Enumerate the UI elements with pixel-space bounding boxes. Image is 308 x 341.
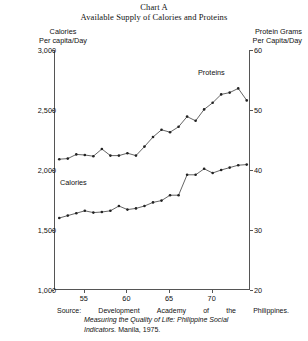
left-axis-header-line1: Calories [30, 27, 96, 36]
data-point [194, 120, 197, 123]
source-word-2: Academy [157, 306, 186, 315]
data-point [203, 168, 206, 171]
data-point [135, 154, 138, 157]
source-word-1: Development [98, 306, 139, 315]
left-axis-tick-mark [51, 50, 54, 51]
x-axis-tick-label: 60 [115, 294, 137, 303]
source-line-1: Source: Development Academy of the Phili… [57, 306, 289, 315]
right-axis-header-line2: Per Capita/Day [216, 36, 302, 45]
data-point [66, 214, 69, 217]
data-point [58, 217, 61, 220]
data-point [160, 129, 163, 132]
data-point [118, 154, 121, 157]
data-point [228, 91, 231, 94]
data-point [126, 152, 129, 155]
right-axis-header: Protein Grams Per Capita/Day [216, 27, 302, 45]
left-axis-tick-mark [51, 230, 54, 231]
chart-svg [55, 50, 251, 290]
calories-series-label: Calories [60, 178, 87, 187]
source-word-5: Philippines. [253, 306, 289, 315]
data-point [228, 166, 231, 169]
data-point [220, 169, 223, 172]
data-point [211, 102, 214, 105]
calories-line [59, 165, 246, 218]
left-axis-tick-label: 2,500 [16, 106, 56, 115]
data-point [177, 126, 180, 129]
data-point [135, 207, 138, 210]
right-axis-tick-mark [250, 170, 253, 171]
left-axis-tick-mark [51, 170, 54, 171]
data-point [237, 164, 240, 167]
data-point [101, 148, 104, 151]
data-point [152, 136, 155, 139]
x-axis-tick-mark [169, 290, 170, 293]
plot-area [54, 50, 250, 290]
x-axis-tick-label: 65 [158, 294, 180, 303]
right-axis-tick-label: 30 [254, 226, 294, 235]
chart-subtitle: Available Supply of Calories and Protein… [0, 13, 308, 23]
left-axis-tick-label: 3,000 [16, 46, 56, 55]
data-point [169, 131, 172, 134]
x-axis-tick-mark [212, 290, 213, 293]
right-axis-tick-mark [250, 110, 253, 111]
right-axis-tick-mark [250, 50, 253, 51]
data-point [186, 174, 189, 177]
left-axis-tick-label: 1,000 [16, 286, 56, 295]
data-point [84, 210, 87, 213]
data-point [58, 158, 61, 161]
right-axis-tick-mark [250, 230, 253, 231]
right-axis-tick-mark [250, 290, 253, 291]
data-point [220, 93, 223, 96]
source-note: Source: Development Academy of the Phili… [57, 306, 289, 334]
data-point [203, 108, 206, 111]
right-axis-tick-label: 40 [254, 166, 294, 175]
data-point [186, 115, 189, 118]
data-point [177, 194, 180, 197]
right-axis-tick-label: 60 [254, 46, 294, 55]
source-line-3-title: Indicators. [84, 326, 116, 333]
proteins-line [59, 88, 246, 159]
left-axis-header-line2: Per capita/Day [30, 36, 96, 45]
data-point [126, 208, 129, 211]
data-point [92, 211, 95, 214]
left-axis-header: Calories Per capita/Day [30, 27, 96, 45]
data-point [245, 99, 248, 102]
data-point [237, 87, 240, 90]
left-axis-tick-mark [51, 290, 54, 291]
left-axis-tick-mark [51, 110, 54, 111]
data-point [118, 205, 121, 208]
data-point [143, 145, 146, 148]
data-point [245, 163, 248, 166]
data-point [211, 172, 214, 175]
data-point [75, 153, 78, 156]
data-point [101, 211, 104, 214]
right-axis-tick-label: 20 [254, 286, 294, 295]
x-axis-tick-label: 70 [201, 294, 223, 303]
source-word-3: of [203, 306, 209, 315]
data-point [152, 201, 155, 204]
x-axis-tick-mark [84, 290, 85, 293]
data-point [84, 154, 87, 157]
proteins-series-label: Proteins [198, 68, 225, 77]
proteins-points [58, 87, 248, 160]
data-point [143, 205, 146, 208]
data-point [109, 154, 112, 157]
data-point [109, 210, 112, 213]
x-axis-tick-label: 55 [73, 294, 95, 303]
source-word-4: the [226, 306, 236, 315]
source-label: Source: [57, 306, 81, 315]
right-axis-header-line1: Protein Grams [216, 27, 302, 36]
data-point [92, 155, 95, 158]
data-point [194, 174, 197, 177]
data-point [66, 157, 69, 160]
source-line-2: Measuring the Quality of Life: Philippin… [57, 315, 289, 324]
data-point [169, 194, 172, 197]
data-point [160, 199, 163, 202]
left-axis-tick-label: 1,500 [16, 226, 56, 235]
x-axis-tick-mark [126, 290, 127, 293]
data-point [75, 212, 78, 215]
left-axis-tick-label: 2,000 [16, 166, 56, 175]
source-line-3: Indicators. Manila, 1975. [57, 325, 289, 334]
right-axis-tick-label: 50 [254, 106, 294, 115]
source-line-3-rest: Manila, 1975. [116, 326, 160, 333]
